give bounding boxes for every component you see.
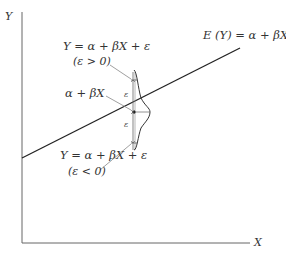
upper-point-condition: (ε > 0) <box>73 56 111 67</box>
regression-line-label: E (Y) = α + βX <box>203 30 286 42</box>
error-distribution-curve <box>134 70 150 150</box>
lower-point-label: Y = α + βX + ε <box>60 150 147 162</box>
y-axis-label: Y <box>5 11 12 22</box>
epsilon-upper-label: ε <box>124 91 128 99</box>
lower-point-condition: (ε < 0) <box>68 166 106 177</box>
mean-label: α + βX <box>65 88 105 100</box>
regression-diagram: Y X E (Y) = α + βX Y = α + βX + ε (ε > 0… <box>0 0 286 256</box>
x-axis-label: X <box>254 237 262 248</box>
regression-line <box>22 48 240 158</box>
upper-point-label: Y = α + βX + ε <box>63 41 150 53</box>
epsilon-lower-label: ε <box>124 121 128 129</box>
upper-label-leader <box>110 65 131 79</box>
